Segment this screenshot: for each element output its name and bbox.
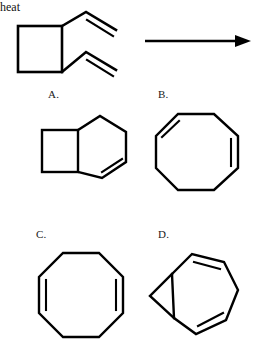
option-d-cyclopropane bbox=[150, 274, 174, 318]
option-a-structure bbox=[38, 112, 143, 197]
reaction-arrow bbox=[143, 32, 255, 50]
figure-canvas: heat A. B. C. D. bbox=[0, 0, 261, 351]
vinyl-upper-double-inner bbox=[87, 20, 113, 36]
option-b-structure bbox=[152, 110, 244, 195]
option-a-cyclobutane bbox=[42, 130, 78, 172]
option-label-c: C. bbox=[36, 228, 47, 240]
option-b-octagon bbox=[156, 114, 238, 190]
arrow-head bbox=[235, 35, 251, 47]
option-label-d: D. bbox=[158, 228, 169, 240]
option-c-structure bbox=[36, 250, 128, 344]
option-d-double-bond-inner-upper bbox=[194, 262, 220, 269]
option-d-structure bbox=[148, 248, 256, 348]
cyclobutane-ring bbox=[18, 26, 62, 72]
reagent-label-heat: heat bbox=[0, 0, 20, 15]
vinyl-lower-double-inner bbox=[87, 60, 113, 76]
option-label-b: B. bbox=[158, 88, 169, 100]
option-c-octagon bbox=[39, 253, 123, 337]
option-a-cyclohexene bbox=[78, 116, 126, 178]
option-label-a: A. bbox=[48, 88, 59, 100]
reactant-structure bbox=[10, 4, 135, 86]
